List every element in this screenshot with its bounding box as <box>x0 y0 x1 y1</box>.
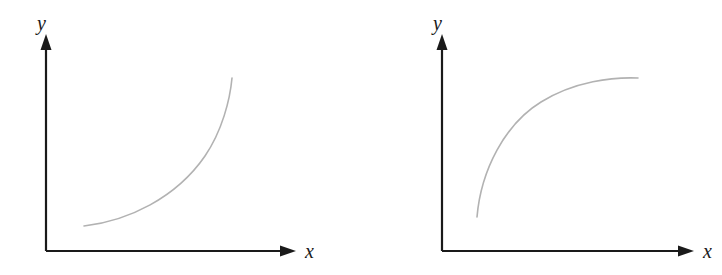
concave-increasing-curve-panel: y x <box>361 0 722 275</box>
y-axis-label: y <box>35 12 46 35</box>
y-axis-arrowhead-icon <box>41 34 52 50</box>
concave-increasing-curve <box>477 78 638 217</box>
x-axis-label: x <box>702 240 712 262</box>
y-axis-label: y <box>431 12 442 35</box>
x-axis-arrowhead-icon <box>280 246 296 257</box>
x-axis-group <box>442 246 694 257</box>
x-axis-group <box>46 246 296 257</box>
figure-root: y x y x <box>0 0 722 275</box>
y-axis-group <box>437 34 448 251</box>
convex-increasing-curve <box>84 78 232 226</box>
x-axis-arrowhead-icon <box>678 246 694 257</box>
x-axis-label: x <box>304 240 314 262</box>
y-axis-arrowhead-icon <box>437 34 448 50</box>
convex-increasing-curve-panel: y x <box>0 0 361 275</box>
y-axis-group <box>41 34 52 251</box>
